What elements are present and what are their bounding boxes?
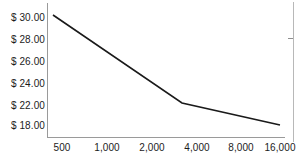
- data-series-line: [53, 15, 280, 125]
- adjacent-frame-tick: [288, 38, 293, 39]
- plot-area: [0, 0, 302, 160]
- line-chart: $ 30.00$ 28.00$ 26.00$ 24.00$ 22.00$ 18.…: [0, 0, 302, 160]
- adjacent-frame-border: [293, 2, 294, 142]
